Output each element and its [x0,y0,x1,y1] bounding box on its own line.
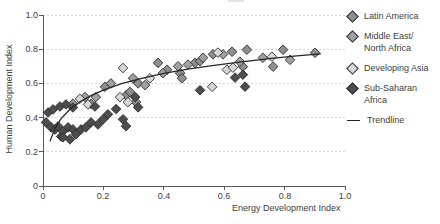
data-point-diamond [268,62,278,72]
data-point-diamond [153,58,163,68]
cropped-text-artifact [228,0,244,2]
diamond-marker-icon [346,82,359,95]
data-point-diamond [227,47,237,57]
x-tick-label: 0.4 [158,192,171,201]
data-point-diamond [278,45,288,55]
legend-item-middle-east-north-africa: Middle East/ North Africa [347,30,429,54]
x-tick-label: 1.0 [339,192,352,201]
y-tick-label: 0 [12,182,38,191]
legend-label: Trendline [367,114,404,126]
data-point-diamond [267,52,277,62]
diamond-marker-icon [346,30,359,43]
data-point-diamond [118,63,128,73]
legend-item-sub-saharan-africa: Sub-Saharan Africa [347,82,429,106]
y-tick-label: 0.6 [12,79,38,88]
y-tick-label: 0.8 [12,45,38,54]
x-tick-label: 0.6 [218,192,231,201]
data-point-diamond [258,53,268,63]
y-tick-label: 0.2 [12,148,38,157]
legend-item-latin-america: Latin America [347,10,429,22]
legend-label: Developing Asia [364,62,429,74]
data-point-diamond [195,85,205,95]
diamond-marker-icon [346,10,359,23]
legend-label: Sub-Saharan Africa [364,82,417,106]
diamond-marker-icon [346,62,359,75]
y-tick-label: 1.0 [12,11,38,20]
legend-label: Latin America [364,10,419,22]
y-axis-title: Human Development Index [4,13,14,185]
legend: Latin America Middle East/ North Africa … [347,10,429,126]
x-tick-label: 0.2 [97,192,110,201]
legend-label: Middle East/ North Africa [364,30,414,54]
legend-item-developing-asia: Developing Asia [347,62,429,74]
x-tick-label: 0.8 [279,192,292,201]
data-point-diamond [111,104,121,114]
data-point-diamond [242,45,252,55]
x-tick-label: 0 [40,192,45,201]
x-axis-title: Energy Development Index [232,203,341,213]
scatter-chart: 1.0 0.8 0.6 0.4 0.2 0 0 0.2 0.4 0.6 0.8 … [0,0,440,224]
y-tick-label: 0.4 [12,114,38,123]
trendline-marker-icon [347,120,360,121]
legend-item-trendline: Trendline [347,114,429,126]
